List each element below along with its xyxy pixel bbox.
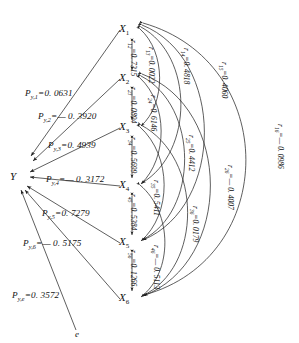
label-r36: r36=0. 0179 (189, 206, 199, 242)
path-diagram-canvas: Y X1 X2 X3 X4 X5 X6 e Py,1=0. 0631 Py,2=… (0, 0, 299, 343)
label-r16: r16=— 0. 0986 (274, 124, 284, 169)
label-py5: Py,5=0. 7279 (42, 209, 90, 220)
label-r12: r12=0. 7315 (127, 40, 137, 76)
label-pye: Py,e=0. 3572 (12, 291, 59, 302)
label-r14: r14=0. 4818 (180, 48, 190, 84)
node-x6: X6 (119, 292, 129, 306)
label-r26: r26=— 0. 4007 (224, 165, 234, 210)
label-py6: Py,6=— 0. 5175 (23, 239, 81, 250)
label-py2: Py,2=— 0. 3920 (38, 112, 96, 123)
label-r15: r15=0. 4060 (218, 62, 228, 98)
node-x5: X5 (119, 236, 129, 250)
node-y: Y (10, 171, 16, 182)
label-r25: r25=0. 4412 (185, 135, 195, 171)
label-r45: r45=0. 5384 (127, 194, 137, 230)
node-e: e (75, 330, 79, 339)
label-r46: r46=— 0. 5113 (150, 245, 160, 289)
node-x1: X1 (119, 23, 129, 37)
label-r23: r23=0. 0894 (127, 87, 137, 123)
label-py3: Py,3=0. 4939 (48, 141, 96, 152)
label-r35: r35=0. 5411 (150, 180, 160, 216)
label-r34: r34=0. 5699 (127, 137, 137, 173)
label-py4: Py,4=— 0. 3172 (46, 175, 104, 186)
label-r56: r56=0. 1266 (127, 250, 137, 286)
label-py1: Py,1=0. 0631 (25, 89, 73, 100)
node-x4: X4 (119, 179, 129, 193)
label-r24: r24=0. 6146 (147, 95, 157, 131)
label-r13: r13=0. 0022 (145, 47, 155, 83)
